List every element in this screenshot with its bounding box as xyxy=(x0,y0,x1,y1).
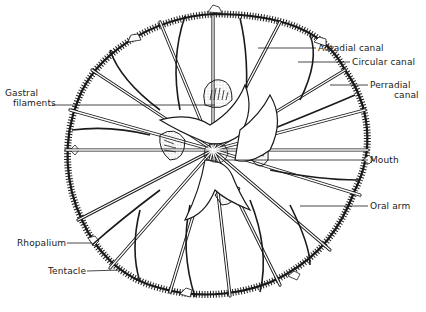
label-tentacle: Tentacle xyxy=(48,266,86,276)
label-rhopalium: Rhopalium xyxy=(17,238,66,248)
label-gastral-line1: Gastral xyxy=(5,88,56,98)
label-perradial-line1: Perradial xyxy=(370,80,419,90)
label-circular-canal: Circular canal xyxy=(352,57,415,67)
gastric-pouch-left xyxy=(160,131,185,160)
label-mouth: Mouth xyxy=(370,155,399,165)
leader-tentacle xyxy=(87,270,120,271)
mouth xyxy=(204,143,228,162)
label-gastral-line2: filaments xyxy=(5,98,56,108)
label-adradial-canal: Adradial canal xyxy=(318,43,384,53)
label-perradial-canal: Perradial canal xyxy=(370,80,419,100)
label-gastral-filaments: Gastral filaments xyxy=(5,88,56,108)
rhopalium-top xyxy=(208,5,222,13)
label-perradial-line2: canal xyxy=(370,90,419,100)
label-oral-arm: Oral arm xyxy=(370,201,410,211)
